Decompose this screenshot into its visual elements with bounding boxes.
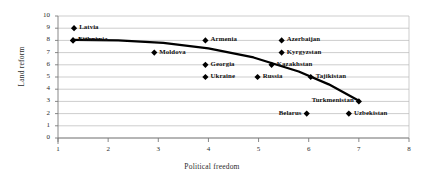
y-tick-label: 5	[34, 72, 50, 80]
point-label: Ukraine	[211, 72, 236, 79]
y-tick-label: 6	[34, 60, 50, 68]
y-tick-label: 0	[34, 133, 50, 141]
point-label: Kazakhstan	[277, 60, 313, 67]
point-label: Belarus	[279, 109, 302, 116]
plot-area	[0, 0, 424, 187]
x-tick-label: 5	[251, 145, 267, 153]
x-tick-label: 2	[100, 145, 116, 153]
y-tick-label: 3	[34, 96, 50, 104]
point-label: Estonia	[78, 35, 101, 42]
x-axis-title: Political freedom	[0, 162, 424, 171]
point-label: Moldova	[159, 48, 185, 55]
y-tick-label: 4	[34, 84, 50, 92]
point-label: Kyrgyzstan	[287, 48, 322, 55]
y-tick-label: 8	[34, 35, 50, 43]
x-tick-label: 3	[150, 145, 166, 153]
x-tick-label: 7	[351, 145, 367, 153]
y-tick-label: 7	[34, 48, 50, 56]
y-tick-label: 9	[34, 23, 50, 31]
point-label: Russia	[263, 72, 283, 79]
x-tick-label: 4	[200, 145, 216, 153]
point-label: Tajikistan	[316, 72, 346, 79]
point-label: Latvia	[79, 23, 98, 30]
y-tick-label: 1	[34, 121, 50, 129]
scatter-chart: Land reform Political freedom 0123456789…	[0, 0, 424, 187]
y-axis-title: Land reform	[17, 28, 26, 106]
point-label: Armenia	[211, 35, 237, 42]
point-label: Uzbekistan	[354, 109, 387, 116]
y-tick-label: 2	[34, 109, 50, 117]
x-tick-label: 1	[50, 145, 66, 153]
x-tick-label: 8	[401, 145, 417, 153]
y-tick-label: 10	[34, 11, 50, 19]
point-label: Azerbaijan	[287, 35, 320, 42]
point-label: Georgia	[211, 60, 235, 67]
x-tick-label: 6	[301, 145, 317, 153]
point-label: Turkmenistan	[312, 96, 354, 103]
